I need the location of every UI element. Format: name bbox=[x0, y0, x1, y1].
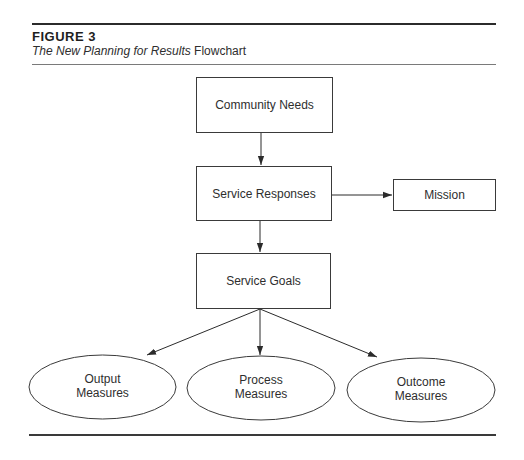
node-community-needs: Community Needs bbox=[197, 78, 333, 133]
arrow-goals-to-output bbox=[147, 309, 260, 355]
node-label: Mission bbox=[424, 188, 465, 202]
node-service-goals: Service Goals bbox=[197, 254, 331, 309]
arrow-goals-to-outcome bbox=[260, 309, 377, 357]
node-label-line1: Output bbox=[84, 372, 121, 386]
node-label: Service Responses bbox=[212, 187, 315, 201]
node-service-responses: Service Responses bbox=[197, 167, 332, 221]
flowchart: Community Needs Service Responses Missio… bbox=[0, 0, 524, 460]
node-output-measures: Output Measures bbox=[29, 355, 176, 419]
node-process-measures: Process Measures bbox=[187, 356, 335, 420]
node-label-line1: Outcome bbox=[397, 375, 446, 389]
node-label: Service Goals bbox=[226, 274, 301, 288]
node-label-line2: Measures bbox=[235, 387, 288, 401]
node-outcome-measures: Outcome Measures bbox=[347, 358, 495, 422]
node-label-line2: Measures bbox=[395, 389, 448, 403]
node-label-line2: Measures bbox=[76, 386, 129, 400]
bottom-rule bbox=[29, 434, 496, 436]
node-label: Community Needs bbox=[215, 98, 314, 112]
node-mission: Mission bbox=[394, 180, 496, 211]
node-label-line1: Process bbox=[239, 373, 282, 387]
